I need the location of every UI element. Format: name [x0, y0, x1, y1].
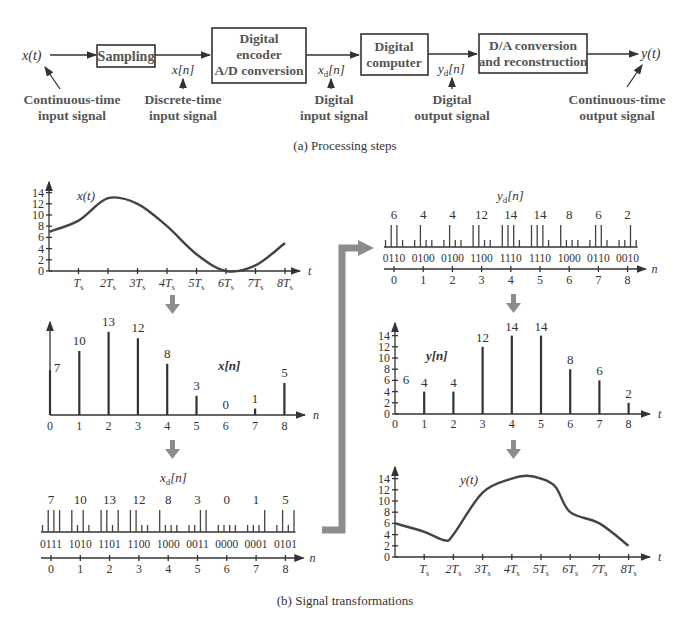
- annotation-discrete-input: Discrete-time input signal: [145, 92, 222, 123]
- n-tick-label: 4: [165, 562, 171, 576]
- plot-xd-of-n: xd[n]70111101010131101121100810003001100…: [40, 470, 315, 576]
- n-tick-label: 8: [626, 417, 632, 431]
- n-tick-label: 5: [538, 417, 544, 431]
- code-value: 5: [282, 492, 289, 507]
- code-value: 13: [103, 492, 116, 507]
- plot-y-of-t: t02468101214Ts2Ts3Ts4Ts5Ts6Ts7Ts8Tsy(t): [378, 467, 662, 578]
- binary-code: 1000: [558, 252, 581, 264]
- axis-label: n: [313, 408, 319, 422]
- plot-x-of-n: n012345678710131283015x[n]: [47, 314, 319, 433]
- x-of-t-label: x(t): [76, 188, 95, 203]
- stem-value: 14: [505, 319, 519, 334]
- t-tick-label: 3Ts: [474, 562, 491, 578]
- n-tick-label: 0: [47, 419, 53, 433]
- code-value: 12: [475, 207, 488, 222]
- svg-text:input signal: input signal: [149, 108, 217, 123]
- svg-text:n: n: [309, 551, 315, 565]
- n-tick-label: 4: [509, 417, 515, 431]
- svg-text:Sampling: Sampling: [98, 49, 155, 64]
- y-of-t-label: y(t): [458, 472, 478, 487]
- code-value: 0: [224, 492, 231, 507]
- annotation-continuous-input: Continuous-time input signal: [24, 92, 121, 123]
- binary-code: 0110: [587, 252, 610, 264]
- code-value: 4: [449, 207, 456, 222]
- n-tick-label: 7: [253, 562, 259, 576]
- svg-text:and reconstruction: and reconstruction: [479, 54, 588, 69]
- t-tick-label: 5Ts: [533, 562, 549, 578]
- axis-label: t: [308, 264, 312, 278]
- stem-value: 2: [625, 386, 632, 401]
- n-tick-label: 0: [391, 273, 397, 287]
- n-tick-label: 2: [107, 562, 113, 576]
- svg-text:Continuous-time: Continuous-time: [24, 92, 121, 107]
- n-tick-label: 1: [76, 419, 82, 433]
- stem-value: 1: [252, 391, 259, 406]
- t-tick-label: 7Ts: [591, 562, 607, 578]
- n-tick-label: 6: [223, 419, 229, 433]
- t-tick-label: 8Ts: [621, 562, 637, 578]
- code-value: 10: [74, 492, 87, 507]
- annotation-digital-input: Digital input signal: [300, 92, 368, 123]
- y-tick-label: 14: [378, 329, 390, 343]
- plot-y-of-n: t02468101214012345678644121414862y[n]: [378, 319, 662, 431]
- code-value: 7: [48, 492, 55, 507]
- code-value: 2: [624, 207, 631, 222]
- stem-value: 5: [281, 365, 288, 380]
- t-tick-label: Ts: [74, 276, 84, 292]
- n-tick-label: 3: [135, 419, 141, 433]
- svg-text:Digital: Digital: [240, 31, 279, 46]
- stem-value: 3: [193, 378, 200, 393]
- stem-value: 8: [164, 346, 171, 361]
- n-tick-label: 4: [164, 419, 170, 433]
- output-signal-label: y(t): [639, 46, 661, 62]
- axis-label: t: [658, 407, 662, 421]
- n-tick-label: 2: [449, 273, 455, 287]
- n-tick-label: 2: [450, 417, 456, 431]
- stem-value: 8: [567, 352, 574, 367]
- svg-text:output signal: output signal: [579, 108, 655, 123]
- dsp-figure: x(t) Sampling x[n] Digital encoder A/D c…: [0, 0, 690, 627]
- plot-yd-of-n-title: yd[n]: [495, 188, 524, 205]
- svg-text:computer: computer: [366, 55, 421, 70]
- y-of-n-label: y[n]: [424, 348, 448, 363]
- stem-value: 6: [596, 363, 603, 378]
- n-tick-label: 6: [566, 273, 572, 287]
- n-tick-label: 5: [194, 419, 200, 433]
- t-tick-label: 5Ts: [189, 276, 205, 292]
- svg-text:Digital: Digital: [375, 39, 414, 54]
- n-tick-label: 8: [281, 419, 287, 433]
- n-tick-label: 6: [224, 562, 230, 576]
- n-tick-label: 8: [625, 273, 631, 287]
- stem-value: 0: [223, 397, 230, 412]
- binary-code: 0100: [412, 252, 435, 264]
- svg-text:Digital: Digital: [315, 92, 354, 107]
- y-tick-label: 14: [32, 186, 44, 200]
- svg-text:D/A conversion: D/A conversion: [489, 38, 578, 53]
- x-of-n-label: x[n]: [217, 358, 240, 373]
- code-value: 8: [566, 207, 573, 222]
- n-tick-label: 3: [136, 562, 142, 576]
- t-tick-label: 3Ts: [129, 276, 146, 292]
- ydn-signal-label: yd[n]: [436, 61, 465, 78]
- signal-transformations: t02468101214Ts2Ts3Ts4Ts5Ts6Ts7Ts8Tsx(t)n…: [32, 182, 662, 578]
- plot-xd-of-n-title: xd[n]: [159, 470, 187, 487]
- code-value: 14: [534, 207, 548, 222]
- svg-text:output signal: output signal: [414, 108, 490, 123]
- svg-text:Digital: Digital: [433, 92, 472, 107]
- axis-label: t: [658, 550, 662, 564]
- stem-value: 4: [421, 375, 428, 390]
- n-tick-label: 0: [48, 562, 54, 576]
- code-value: 4: [420, 207, 427, 222]
- svg-text:Continuous-time: Continuous-time: [569, 92, 666, 107]
- stem-value: 12: [131, 320, 144, 335]
- code-value: 14: [504, 207, 518, 222]
- n-tick-label: 4: [508, 273, 514, 287]
- n-tick-label: 2: [106, 419, 112, 433]
- binary-code: 1010: [69, 538, 92, 550]
- t-tick-label: 6Ts: [218, 276, 234, 292]
- n-tick-label: 5: [537, 273, 543, 287]
- binary-code: 0100: [441, 252, 464, 264]
- block-diagram: x(t) Sampling x[n] Digital encoder A/D c…: [21, 28, 665, 153]
- binary-code: 1101: [98, 538, 121, 550]
- code-value: 6: [595, 207, 602, 222]
